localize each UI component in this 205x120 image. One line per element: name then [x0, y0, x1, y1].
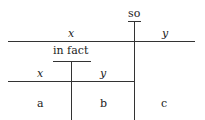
top-divider	[134, 21, 135, 120]
inner-rule	[8, 81, 135, 82]
leaf-a: a	[37, 98, 44, 110]
top-rule	[8, 41, 195, 42]
leaf-b: b	[100, 98, 107, 110]
top-connective-label: so	[128, 8, 140, 20]
inner-divider	[71, 61, 72, 120]
inner-left-label: x	[37, 68, 43, 80]
inner-connective-label: in fact	[53, 45, 88, 57]
top-left-label: x	[68, 28, 74, 40]
top-right-label: y	[162, 28, 168, 40]
inner-right-label: y	[100, 68, 106, 80]
leaf-c: c	[161, 98, 167, 110]
inner-connective-bar	[53, 61, 91, 62]
